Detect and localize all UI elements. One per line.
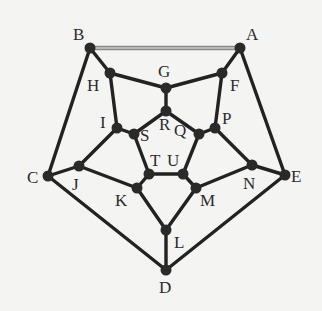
edge-E-D [166, 175, 285, 270]
edge-C-B [48, 48, 90, 176]
vertex-L [161, 225, 172, 236]
vertex-label-H: H [87, 76, 99, 95]
edge-K-J [79, 166, 137, 188]
edge-Q-U [183, 134, 199, 174]
vertex-A [235, 43, 246, 54]
vertex-label-S: S [140, 126, 149, 145]
vertex-E [280, 170, 291, 181]
vertex-I [112, 123, 123, 134]
vertex-C [43, 171, 54, 182]
edge-J-I [79, 128, 117, 166]
edge-D-C [48, 176, 166, 270]
vertex-K [132, 183, 143, 194]
vertex-label-T: T [150, 151, 161, 170]
vertex-label-N: N [243, 174, 255, 193]
labels-layer: ABCDEFGHIJKLMNPQRSTU [27, 25, 301, 297]
edge-F-P [215, 73, 222, 128]
edge-G-F [166, 73, 222, 88]
vertex-S [129, 129, 140, 140]
vertex-H [105, 68, 116, 79]
vertex-label-U: U [167, 151, 179, 170]
vertex-F [217, 68, 228, 79]
graph-canvas: ABCDEFGHIJKLMNPQRSTU [0, 0, 322, 311]
vertex-label-D: D [159, 278, 171, 297]
vertex-label-R: R [159, 115, 171, 134]
edge-L-K [137, 188, 166, 230]
vertex-label-K: K [115, 191, 128, 210]
vertex-G [161, 83, 172, 94]
vertex-label-P: P [222, 109, 231, 128]
vertex-U [178, 169, 189, 180]
vertex-label-J: J [72, 175, 79, 194]
vertex-label-G: G [158, 62, 170, 81]
vertex-label-F: F [230, 76, 239, 95]
dodecahedron-diagram: ABCDEFGHIJKLMNPQRSTU [0, 0, 322, 311]
vertex-label-C: C [27, 168, 38, 187]
edge-A-E [240, 48, 285, 175]
vertex-D [161, 265, 172, 276]
vertex-label-A: A [246, 25, 259, 44]
vertex-label-E: E [291, 167, 301, 186]
edge-I-H [110, 73, 117, 128]
edge-M-L [166, 188, 196, 230]
vertex-T [144, 169, 155, 180]
vertex-label-B: B [73, 25, 84, 44]
vertex-B [85, 43, 96, 54]
vertex-label-I: I [100, 113, 106, 132]
vertex-label-Q: Q [174, 121, 186, 140]
vertex-N [247, 160, 258, 171]
vertex-label-M: M [200, 191, 215, 210]
vertex-J [74, 161, 85, 172]
vertex-label-L: L [174, 233, 184, 252]
edge-P-N [215, 128, 252, 165]
vertex-P [210, 123, 221, 134]
vertex-Q [194, 129, 205, 140]
